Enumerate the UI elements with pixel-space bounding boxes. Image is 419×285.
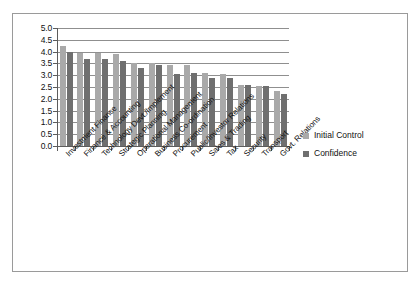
x-axis-label: Tax xyxy=(225,152,231,158)
x-axis-label: Public/Investor Relations xyxy=(189,152,195,158)
x-axis-label: Procurement xyxy=(171,152,177,158)
x-axis-label: Finance & Accounting xyxy=(82,152,88,158)
x-axis-label: Business Co-ordination xyxy=(153,152,159,158)
bar-initial-control[interactable] xyxy=(60,46,66,146)
x-axis-label: Investment Finance xyxy=(64,152,70,158)
x-axis-category-labels: Investment FinanceFinance & AccountingTe… xyxy=(57,152,302,262)
legend-swatch-icon xyxy=(303,133,309,139)
legend-label: Confidence xyxy=(314,149,357,158)
x-axis-label: Strategic Planning xyxy=(117,152,123,158)
bar-group[interactable] xyxy=(255,28,271,146)
x-axis-label: Operational Management xyxy=(135,152,141,158)
y-axis-tick-label: 4.5 xyxy=(12,36,52,45)
bar-group[interactable] xyxy=(59,28,75,146)
y-axis-tick-label: 2.0 xyxy=(12,95,52,104)
bar-confidence[interactable] xyxy=(67,52,73,146)
chart-frame: 5.04.54.03.53.02.52.01.51.00.50.0 Invest… xyxy=(12,13,408,272)
y-axis-tick-label: 5.0 xyxy=(12,24,52,33)
bar-group[interactable] xyxy=(273,28,289,146)
x-axis-label: Sales & Trading xyxy=(207,152,213,158)
chart-legend: Initial ControlConfidence xyxy=(303,131,403,167)
x-axis-label: Govt. Relations xyxy=(278,152,284,158)
legend-swatch-icon xyxy=(303,151,309,157)
legend-item[interactable]: Initial Control xyxy=(303,131,403,140)
legend-label: Initial Control xyxy=(314,131,364,140)
y-axis-tick-label: 4.0 xyxy=(12,48,52,57)
x-axis-tick xyxy=(57,147,58,151)
y-axis-tick-label: 1.5 xyxy=(12,107,52,116)
y-axis-tick-labels: 5.04.54.03.53.02.52.01.51.00.50.0 xyxy=(13,14,52,273)
x-axis-label: Security xyxy=(242,152,248,158)
x-axis-label: Transport xyxy=(260,152,266,158)
y-axis-tick-label: 3.5 xyxy=(12,59,52,68)
y-axis-tick-label: 1.0 xyxy=(12,118,52,127)
y-axis-tick-label: 3.0 xyxy=(12,71,52,80)
y-axis-tick-label: 0.0 xyxy=(12,142,52,151)
y-axis-tick-label: 0.5 xyxy=(12,130,52,139)
legend-item[interactable]: Confidence xyxy=(303,149,403,158)
x-axis-label: Technology Devt./Implement xyxy=(100,152,106,158)
y-axis-tick-label: 2.5 xyxy=(12,83,52,92)
chart-plot-wrapper: 5.04.54.03.53.02.52.01.51.00.50.0 Invest… xyxy=(13,14,409,273)
